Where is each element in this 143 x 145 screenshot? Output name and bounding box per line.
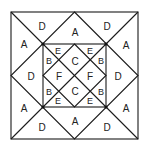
label-b-bottom-left: B <box>46 87 52 97</box>
label-c-bottom: C <box>71 86 78 97</box>
label-left-center: D <box>27 71 34 82</box>
label-e-bottom-right: E <box>87 96 93 106</box>
label-bottom-left-upper: A <box>21 103 28 114</box>
label-bottom-right-lower: D <box>103 122 110 133</box>
label-f-right: F <box>87 71 93 82</box>
label-e-bottom-left: E <box>55 96 61 106</box>
label-b-top-right: B <box>98 56 104 66</box>
label-top-left-lower: A <box>21 39 28 50</box>
vertex-dot <box>41 42 44 45</box>
label-c-top: C <box>71 56 78 67</box>
quilt-block-diagram: D A A D A D D A D A A D E E E E B B B B … <box>0 0 143 145</box>
label-right-center: D <box>114 71 121 82</box>
vertex-dot <box>104 42 107 45</box>
label-e-top-left: E <box>55 46 61 56</box>
label-e-top-right: E <box>87 46 93 56</box>
label-top-center: A <box>72 27 79 38</box>
label-b-top-left: B <box>46 56 52 66</box>
label-top-right-upper: D <box>103 21 110 32</box>
label-f-left: F <box>56 71 62 82</box>
label-bottom-left-lower: D <box>38 122 45 133</box>
label-top-right-lower: A <box>123 40 130 51</box>
label-bottom-right-upper: A <box>123 103 130 114</box>
vertex-dot <box>41 105 44 108</box>
label-top-left-upper: D <box>38 21 45 32</box>
vertex-dot <box>104 105 107 108</box>
label-b-bottom-right: B <box>98 87 104 97</box>
label-bottom-center: A <box>72 116 79 127</box>
